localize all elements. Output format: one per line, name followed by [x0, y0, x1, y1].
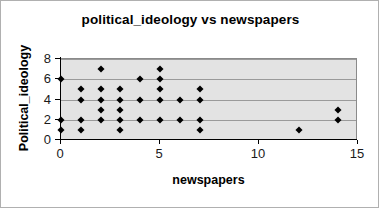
x-axis-tick-label: 15: [337, 147, 377, 160]
x-axis-title: newspapers: [60, 173, 357, 187]
y-axis-tick: [55, 58, 60, 59]
plot-area: [60, 58, 357, 139]
x-axis-tick-label: 0: [40, 147, 80, 160]
gridline: [61, 79, 356, 80]
x-axis-tick-label: 5: [139, 147, 179, 160]
x-axis-tick-label: 10: [238, 147, 278, 160]
gridline: [61, 120, 356, 121]
y-axis-tick: [55, 78, 60, 79]
chart-title: political_ideology vs newspapers: [1, 12, 380, 27]
y-axis-line: [60, 57, 61, 140]
gridline: [61, 59, 356, 60]
gridlines: [61, 59, 356, 139]
x-axis-tick: [60, 140, 61, 144]
x-axis-tick: [159, 140, 160, 144]
gridline: [61, 100, 356, 101]
x-axis-tick: [258, 140, 259, 144]
x-axis-line: [60, 139, 357, 140]
chart-frame: political_ideology vs newspapers 02468 0…: [0, 0, 379, 208]
x-axis-tick: [357, 140, 358, 144]
y-axis-title: Political_ideology: [17, 33, 31, 163]
y-axis-tick: [55, 99, 60, 100]
y-axis-tick: [55, 119, 60, 120]
